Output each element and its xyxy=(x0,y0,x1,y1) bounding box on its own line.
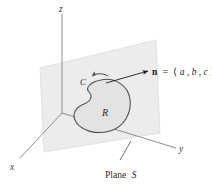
plane-label-leader xyxy=(120,141,131,160)
normal-vector-equals: = xyxy=(163,67,168,77)
z-axis-label: z xyxy=(58,4,63,14)
normal-vector-component-a: a xyxy=(180,67,185,77)
normal-vector-close-bracket: ⟩ xyxy=(211,67,212,77)
plane-s-label: Plane S xyxy=(105,169,136,180)
x-axis-label: x xyxy=(9,162,15,172)
plane-s-label-symbol: S xyxy=(131,169,136,180)
region-r-label: R xyxy=(101,107,108,118)
normal-vector-component-c: c xyxy=(204,67,209,77)
normal-vector-open-bracket: ⟨ xyxy=(173,67,177,77)
plane-label-leader-line xyxy=(120,141,131,160)
normal-vector-symbol: n xyxy=(152,67,158,77)
plane-s-label-word: Plane xyxy=(105,170,126,180)
vector-figure: z x y C R Plane S n = ⟨ a , b , c ⟩ xyxy=(0,0,212,185)
figure-container: z x y C R Plane S n = ⟨ a , b , c ⟩ xyxy=(0,0,212,185)
curve-c-label: C xyxy=(80,77,87,87)
normal-vector-label: n = ⟨ a , b , c ⟩ xyxy=(152,67,212,77)
normal-vector-component-b: b xyxy=(192,67,197,77)
y-axis-label: y xyxy=(178,144,184,154)
